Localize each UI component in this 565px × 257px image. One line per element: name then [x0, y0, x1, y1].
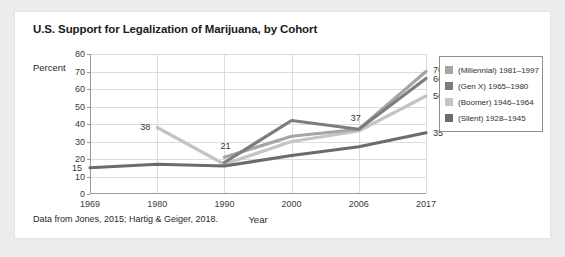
data-point-label: 37 [351, 113, 361, 123]
y-tick-label: 10 [75, 172, 85, 182]
legend-label: (Boomer) 1946–1964 [458, 98, 534, 107]
data-point-label: 21 [220, 141, 230, 151]
y-tick-label: 40 [75, 119, 85, 129]
y-tick-label: 70 [75, 67, 85, 77]
chart-card: U.S. Support for Legalization of Marijua… [14, 11, 551, 239]
x-tick-label: 1969 [80, 199, 100, 209]
x-axis-title: Year [248, 214, 267, 225]
legend-label: (Silent) 1928–1945 [458, 114, 526, 123]
gridline-vertical [426, 54, 427, 194]
data-point-label: 38 [140, 122, 150, 132]
series-line [90, 133, 426, 168]
legend-swatch-icon [445, 66, 453, 74]
legend-swatch-icon [445, 114, 453, 122]
chart-title: U.S. Support for Legalization of Marijua… [33, 23, 317, 35]
legend-item[interactable]: (Silent) 1928–1945 [445, 110, 538, 126]
y-tick-mark [87, 194, 90, 195]
legend-item[interactable]: (Boomer) 1946–1964 [445, 94, 538, 110]
y-tick-label: 60 [75, 84, 85, 94]
y-axis-title: Percent [33, 62, 66, 73]
x-tick-label: 2000 [282, 199, 302, 209]
legend-item[interactable]: (Gen X) 1965–1980 [445, 78, 538, 94]
y-tick-label: 0 [80, 189, 85, 199]
legend-swatch-icon [445, 98, 453, 106]
x-tick-label: 2006 [349, 199, 369, 209]
data-point-label: 15 [72, 163, 82, 173]
legend-item[interactable]: (Millennial) 1981–1997 [445, 62, 538, 78]
legend-label: (Millennial) 1981–1997 [458, 66, 539, 75]
x-tick-label: 1980 [147, 199, 167, 209]
legend-label: (Gen X) 1965–1980 [458, 82, 528, 91]
plot-area: 0102030405060708019691980199020002006201… [90, 54, 426, 194]
y-tick-label: 50 [75, 102, 85, 112]
legend-swatch-icon [445, 82, 453, 90]
x-tick-label: 2017 [416, 199, 436, 209]
chart-legend: (Millennial) 1981–1997(Gen X) 1965–1980(… [439, 56, 543, 132]
y-tick-label: 80 [75, 49, 85, 59]
y-tick-label: 30 [75, 137, 85, 147]
source-footnote: Data from Jones, 2015; Hartig & Geiger, … [33, 214, 218, 224]
x-tick-label: 1990 [214, 199, 234, 209]
